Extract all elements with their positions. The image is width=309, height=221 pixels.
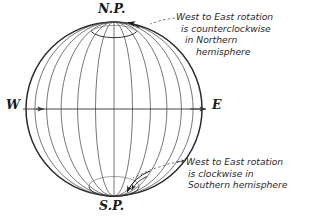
- north-annotation-line-3: in Northern: [176, 34, 273, 46]
- north-pole-label: N.P.: [98, 3, 125, 16]
- north-annotation-line-4: hemisphere: [176, 46, 273, 58]
- south-annotation-line-2: is clockwise in: [186, 168, 287, 180]
- south-annotation-line-3: Southern hemisphere: [186, 179, 287, 191]
- north-annotation-line-1: West to East rotation: [176, 11, 273, 23]
- west-label: W: [6, 99, 20, 112]
- south-pole-label: S.P.: [99, 200, 124, 213]
- rotation-diagram-figure: N.P. S.P. W E West to East rotation is c…: [0, 0, 309, 221]
- south-annotation-line-1: West to East rotation: [186, 156, 287, 168]
- east-label: E: [212, 99, 222, 112]
- south-hemisphere-annotation: West to East rotation is clockwise in So…: [186, 156, 287, 191]
- north-hemisphere-annotation: West to East rotation is counterclockwis…: [176, 11, 273, 57]
- leader-line-north: [150, 18, 175, 24]
- north-annotation-line-2: is counterclockwise: [176, 23, 273, 35]
